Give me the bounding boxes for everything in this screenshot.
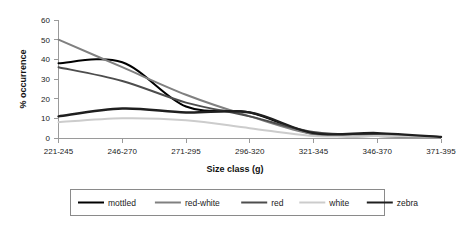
legend-label-zebra: zebra xyxy=(397,198,419,208)
y-tick-label: 60 xyxy=(41,16,50,25)
legend-label-mottled: mottled xyxy=(108,198,136,208)
y-tick-label: 50 xyxy=(41,36,50,45)
data-series-group xyxy=(59,40,442,137)
legend-label-white: white xyxy=(328,198,349,208)
y-tick-label: 20 xyxy=(41,95,50,104)
legend-label-red-white: red-white xyxy=(185,198,220,208)
x-tick-label: 371-395 xyxy=(426,147,456,156)
series-line-zebra xyxy=(59,108,442,137)
x-tick-label: 221-245 xyxy=(44,147,74,156)
x-tick-label: 246-270 xyxy=(108,147,138,156)
legend-label-red: red xyxy=(271,198,284,208)
y-tick-label: 40 xyxy=(41,55,50,64)
series-line-red xyxy=(59,67,442,137)
x-tick-label: 296-320 xyxy=(235,147,265,156)
x-axis-ticks xyxy=(59,139,442,144)
chart-canvas: 0102030405060 221-245246-270271-295296-3… xyxy=(0,0,456,231)
x-tick-label: 321-345 xyxy=(299,147,329,156)
y-tick-label: 0 xyxy=(46,134,51,143)
y-tick-label: 10 xyxy=(41,114,50,123)
x-tick-label: 346-370 xyxy=(363,147,393,156)
y-tick-label: 30 xyxy=(41,75,50,84)
x-tick-label: 271-295 xyxy=(171,147,201,156)
y-axis-ticks xyxy=(54,20,59,138)
x-axis-title: Size class (g) xyxy=(206,164,263,174)
series-line-mottled xyxy=(59,59,442,137)
y-axis-tick-labels: 0102030405060 xyxy=(41,16,50,143)
line-chart: 0102030405060 221-245246-270271-295296-3… xyxy=(0,0,456,231)
y-axis-title: % occurrence xyxy=(18,49,28,108)
x-axis-tick-labels: 221-245246-270271-295296-320321-345346-3… xyxy=(44,147,456,156)
series-line-red-white xyxy=(59,40,442,137)
